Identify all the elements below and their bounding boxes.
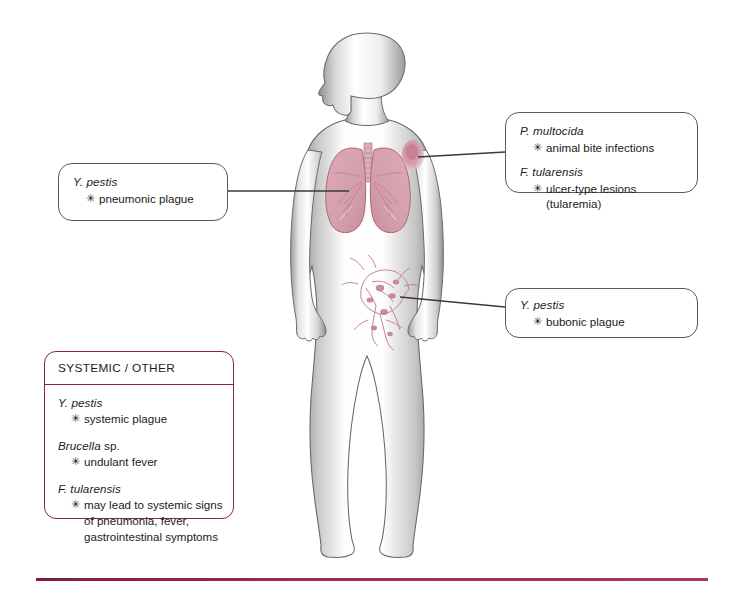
- skin-lesion-callout[interactable]: P. multocida ✳ animal bite infections F.…: [505, 112, 698, 193]
- bullet-item: ✳ animal bite infections: [520, 140, 685, 156]
- organism-name: Y. pestis: [73, 174, 215, 190]
- asterisk-bullet-icon: ✳: [533, 314, 546, 329]
- systemic-other-callout[interactable]: SYSTEMIC / OTHER Y. pestis ✳ systemic pl…: [44, 351, 234, 519]
- asterisk-bullet-icon: ✳: [533, 181, 546, 196]
- systemic-header: SYSTEMIC / OTHER: [45, 352, 233, 385]
- organism-name: Brucella sp.: [58, 438, 223, 454]
- bubonic-plague-callout[interactable]: Y. pestis ✳ bubonic plague: [505, 288, 698, 338]
- skin-lesion: [402, 140, 424, 170]
- bullet-label: bubonic plague: [546, 314, 685, 330]
- callout-entry: Y. pestis ✳ pneumonic plague: [73, 174, 215, 206]
- callout-entry: Y. pestis ✳ systemic plague: [58, 395, 223, 427]
- organism-name: F. tularensis: [520, 164, 685, 180]
- asterisk-bullet-icon: ✳: [71, 411, 84, 426]
- bullet-item: ✳ ulcer-type lesions (tularemia): [520, 181, 685, 212]
- diagram-page: Y. pestis ✳ pneumonic plague P. multocid…: [0, 0, 736, 598]
- organism-name: P. multocida: [520, 123, 685, 139]
- bullet-item: ✳ systemic plague: [58, 411, 223, 427]
- footer-rule: [36, 578, 708, 581]
- organism-name: Y. pestis: [58, 395, 223, 411]
- bullet-item: ✳ bubonic plague: [520, 314, 685, 330]
- callout-entry: F. tularensis ✳ may lead to systemic sig…: [58, 481, 223, 544]
- callout-entry: Y. pestis ✳ bubonic plague: [520, 297, 685, 329]
- bullet-label: pneumonic plague: [99, 191, 215, 207]
- bullet-label: systemic plague: [84, 411, 223, 427]
- neck: [345, 96, 389, 126]
- asterisk-bullet-icon: ✳: [71, 454, 84, 469]
- bullet-item: ✳ undulant fever: [58, 454, 223, 470]
- body-silhouette: [291, 33, 444, 557]
- bullet-item: ✳ may lead to systemic signs of pneumoni…: [58, 497, 223, 544]
- bullet-item: ✳ pneumonic plague: [73, 191, 215, 207]
- bullet-label: animal bite infections: [546, 140, 685, 156]
- organism-name: F. tularensis: [58, 481, 223, 497]
- callout-entry: Brucella sp. ✳ undulant fever: [58, 438, 223, 470]
- asterisk-bullet-icon: ✳: [71, 497, 84, 512]
- bullet-label: ulcer-type lesions (tularemia): [546, 181, 685, 212]
- organism-name: Y. pestis: [520, 297, 685, 313]
- pneumonic-plague-callout[interactable]: Y. pestis ✳ pneumonic plague: [58, 163, 228, 221]
- torso-legs: [299, 120, 435, 557]
- bullet-label: undulant fever: [84, 454, 223, 470]
- connector-skin: [418, 152, 505, 157]
- asterisk-bullet-icon: ✳: [533, 140, 546, 155]
- bullet-label: may lead to systemic signs of pneumonia,…: [84, 497, 223, 544]
- callout-entry: P. multocida ✳ animal bite infections: [520, 123, 685, 155]
- asterisk-bullet-icon: ✳: [86, 191, 99, 206]
- callout-entry: F. tularensis ✳ ulcer-type lesions (tula…: [520, 164, 685, 212]
